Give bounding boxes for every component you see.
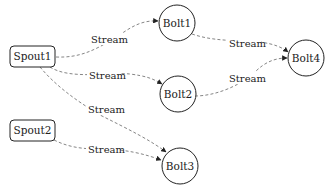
edge-label-spout2-bolt3: Stream <box>88 144 126 155</box>
node-bolt3[interactable]: Bolt3 <box>162 148 198 184</box>
edge-label-spout1-bolt2: Stream <box>89 70 127 81</box>
edge-label-bolt2-bolt4: Stream <box>229 73 267 84</box>
node-label: Spout1 <box>14 50 52 62</box>
edge-label-spout1-bolt1: Stream <box>91 34 129 45</box>
node-spout2[interactable]: Spout2 <box>10 120 55 141</box>
node-label: Spout2 <box>14 124 52 136</box>
node-bolt4[interactable]: Bolt4 <box>288 40 324 76</box>
node-label: Bolt3 <box>166 160 194 172</box>
node-bolt2[interactable]: Bolt2 <box>160 76 196 112</box>
edge-label-bolt1-bolt4: Stream <box>229 38 267 49</box>
node-bolt1[interactable]: Bolt1 <box>159 5 195 41</box>
node-label: Bolt4 <box>292 52 321 64</box>
node-spout1[interactable]: Spout1 <box>10 46 55 67</box>
node-label: Bolt1 <box>163 17 191 29</box>
node-label: Bolt2 <box>164 88 192 100</box>
topology-diagram: Stream Stream Stream Stream Stream Strea… <box>0 0 330 187</box>
edge-label-spout1-bolt3: Stream <box>88 104 126 115</box>
